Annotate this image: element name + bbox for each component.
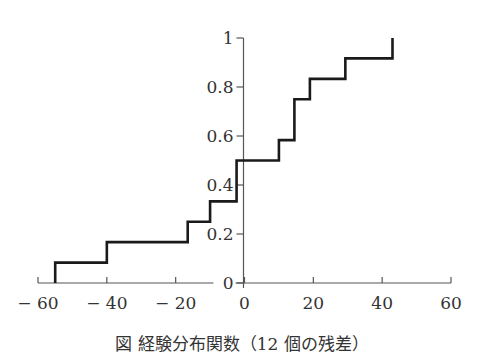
x-tick-label: 0	[239, 293, 250, 313]
y-tick-label: 0.2	[206, 224, 233, 244]
x-tick-label: 40	[371, 293, 393, 313]
x-tick-label: − 60	[17, 293, 58, 313]
ecdf-step-line	[55, 38, 392, 283]
figure-caption: 図 経験分布関数（12 個の残差）	[0, 330, 484, 355]
x-tick-label: − 20	[155, 293, 196, 313]
y-tick-label: 0	[223, 273, 234, 293]
y-tick-label: 1	[223, 28, 234, 48]
x-tick-label: 20	[303, 293, 325, 313]
y-tick-label: 0.6	[206, 126, 233, 146]
y-tick-label: 0.8	[206, 77, 233, 97]
y-tick-label: 0.4	[206, 175, 233, 195]
x-tick-label: − 40	[86, 293, 127, 313]
x-tick-label: 60	[440, 293, 462, 313]
